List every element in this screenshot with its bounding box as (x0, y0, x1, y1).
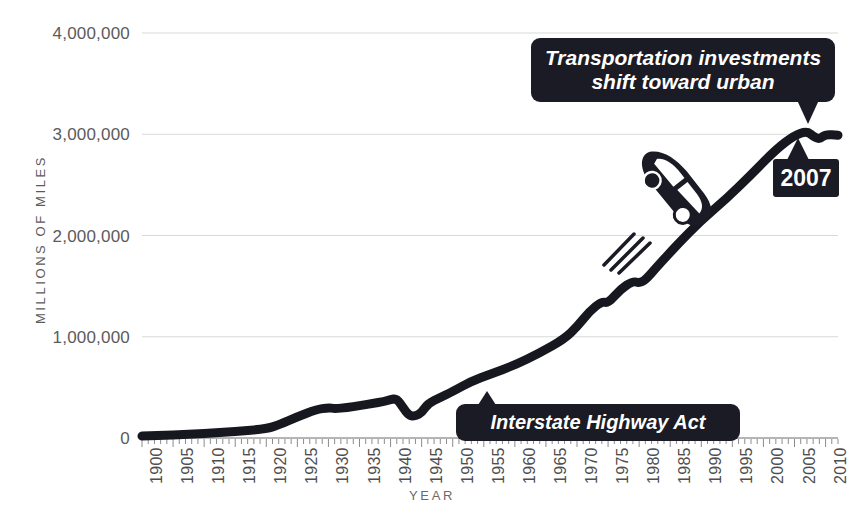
callout-tail-icon (478, 391, 496, 405)
car-icon (630, 141, 719, 238)
x-tick-label: 1920 (273, 447, 289, 484)
x-tick-label: 1935 (367, 447, 383, 484)
annotation-urban-line1: Transportation investments (545, 46, 821, 70)
callout-tail-icon (787, 138, 809, 160)
x-tick-label: 1995 (739, 447, 755, 484)
x-tick-label: 1980 (646, 447, 662, 484)
x-tick-label: 1970 (584, 447, 600, 484)
x-tick-label: 1930 (335, 447, 351, 484)
x-tick-label: 1955 (491, 447, 507, 484)
annotation-urban-line2: shift toward urban (545, 70, 821, 94)
x-tick-label: 1985 (677, 447, 693, 484)
x-axis-title: YEAR (0, 488, 864, 503)
x-tick-label: 2005 (802, 447, 818, 484)
annotation-peak-year-label: 2007 (780, 165, 831, 191)
x-tick-label: 1975 (615, 447, 631, 484)
x-tick-label: 1950 (460, 447, 476, 484)
x-tick-label: 1925 (304, 447, 320, 484)
annotation-interstate-highway-act: Interstate Highway Act (456, 404, 740, 441)
x-tick-label: 1960 (522, 447, 538, 484)
x-tick-label: 1905 (180, 447, 196, 484)
x-tick-label: 2000 (770, 447, 786, 484)
x-tick-label: 1900 (149, 447, 165, 484)
speed-lines-icon (604, 234, 650, 273)
x-tick-label: 1945 (429, 447, 445, 484)
x-tick-label: 1965 (553, 447, 569, 484)
x-tick-label: 1910 (211, 447, 227, 484)
annotation-interstate-label: Interstate Highway Act (491, 411, 706, 434)
callout-tail-icon (797, 100, 819, 124)
x-tick-label: 1940 (398, 447, 414, 484)
x-tick-label: 2010 (833, 447, 849, 484)
chart-container: 4,000,000 3,000,000 2,000,000 1,000,000 … (0, 0, 864, 514)
annotation-peak-year: 2007 (773, 159, 839, 197)
x-tick-label: 1915 (242, 447, 258, 484)
annotation-urban-investments: Transportation investments shift toward … (531, 38, 835, 102)
x-tick-label: 1990 (708, 447, 724, 484)
